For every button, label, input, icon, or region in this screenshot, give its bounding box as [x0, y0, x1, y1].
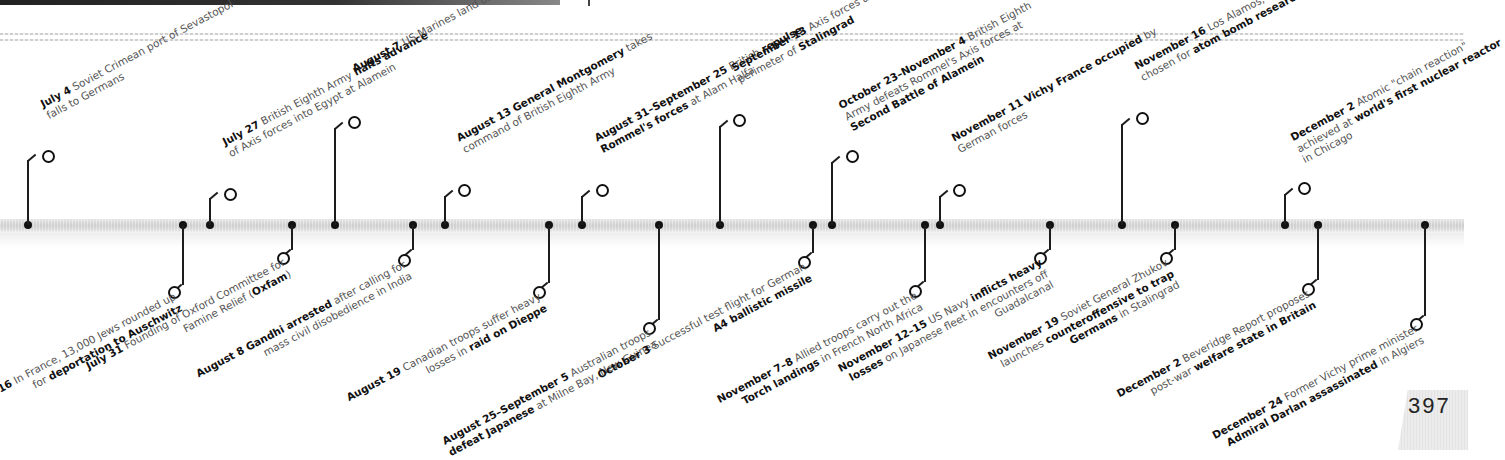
timeline-stem [182, 225, 184, 285]
timeline-stem [924, 225, 926, 282]
event-date: July 16 [0, 377, 14, 406]
timeline-stem [658, 225, 660, 320]
timeline-elbow [27, 154, 36, 162]
timeline-event-label: July 31 Founding of Oxford Committee for… [69, 256, 293, 391]
timeline-bar [0, 219, 1464, 233]
timeline-elbow [444, 190, 453, 198]
timeline-stem [27, 160, 29, 225]
event-date: August 25–September 5 [440, 370, 571, 447]
event-marker-ring [953, 184, 966, 197]
timeline-stem [444, 196, 446, 225]
event-marker-ring [42, 150, 55, 163]
timeline-stem [1317, 225, 1319, 280]
timeline-stem [1174, 225, 1176, 250]
timeline-stem [939, 196, 941, 225]
event-date: August 19 [344, 364, 403, 403]
timeline-elbow [581, 190, 590, 198]
header-rule [0, 39, 1464, 41]
event-date: August 8 [194, 344, 246, 379]
event-marker-ring [1136, 112, 1149, 125]
event-description: Beveridge Report proposes post-war welfa… [1148, 287, 1318, 396]
event-marker-ring [224, 188, 237, 201]
timeline-elbow [334, 122, 343, 130]
timeline-stem [334, 128, 336, 225]
timeline-elbow [209, 192, 218, 200]
event-marker-ring [846, 150, 859, 163]
timeline-elbow [939, 190, 948, 198]
timeline-stem [719, 126, 721, 225]
timeline-stem [412, 225, 414, 250]
timeline-elbow [831, 156, 840, 164]
header-rule [0, 33, 1464, 35]
timeline-stem [1049, 225, 1051, 250]
timeline-stem [831, 162, 833, 225]
timeline-stem [1424, 225, 1426, 316]
timeline-stem [548, 225, 550, 283]
timeline-event-label: December 2 Atomic "chain reaction" achie… [1288, 20, 1505, 166]
timeline-event-label: July 4 Soviet Crimean port of Sevastopol… [38, 0, 262, 121]
timeline-stem [812, 225, 814, 253]
event-marker-ring [348, 116, 361, 129]
timeline-elbow [719, 120, 728, 128]
event-description: Successful test flight for German A4 bal… [650, 260, 814, 352]
timeline-stem [209, 198, 211, 225]
event-description: Soviet Crimean port of Sevastopol falls … [44, 0, 235, 121]
page-mark [588, 0, 590, 6]
event-marker-ring [733, 114, 746, 127]
timeline-bar-shadow [0, 233, 1464, 247]
event-marker-ring [596, 184, 609, 197]
timeline-elbow [1284, 188, 1293, 196]
event-marker-ring [1298, 182, 1311, 195]
event-description: Atomic "chain reaction" achieved at worl… [1294, 36, 1503, 166]
event-marker-ring [458, 184, 471, 197]
page-number: 397 [1408, 393, 1451, 419]
timeline-stem [291, 225, 293, 250]
timeline-stem [581, 196, 583, 225]
event-description: Canadian troops suffer heavy losses in r… [400, 290, 548, 375]
timeline-stem [1284, 194, 1286, 225]
timeline-elbow [1121, 118, 1130, 126]
timeline-stem [1121, 124, 1123, 225]
